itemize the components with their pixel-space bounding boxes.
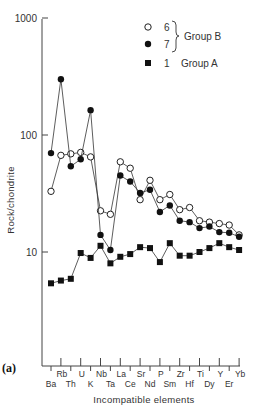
- data-point: [127, 251, 133, 257]
- data-point: [58, 76, 64, 82]
- data-point: [58, 278, 64, 284]
- y-axis-title: Rock/chondrite: [5, 166, 16, 234]
- data-point: [177, 218, 183, 224]
- data-point: [48, 150, 54, 156]
- legend-marker-filled-square: [145, 60, 151, 66]
- data-point: [88, 255, 94, 261]
- x-tick-label-dy: Dy: [204, 379, 215, 389]
- data-point: [167, 240, 173, 246]
- data-point: [197, 249, 203, 255]
- data-point: [97, 232, 103, 238]
- data-point: [87, 154, 93, 160]
- data-point: [137, 244, 143, 250]
- data-point: [137, 196, 143, 202]
- y-tick-label: 10: [26, 247, 38, 258]
- x-tick-label-ce: Ce: [125, 379, 136, 389]
- spider-diagram: 101001000 BaRbThUKNbTaLaCeSrNdPSmZrHfTiD…: [0, 0, 262, 411]
- data-point: [78, 156, 84, 162]
- data-point: [58, 152, 64, 158]
- data-point: [186, 219, 192, 225]
- y-axis: 101001000: [15, 13, 48, 367]
- data-point: [117, 172, 123, 178]
- data-point: [117, 159, 123, 165]
- x-tick-label-la: La: [117, 369, 127, 379]
- legend-brace-icon: [172, 21, 179, 52]
- x-tick-label-rb: Rb: [56, 369, 67, 379]
- x-tick-label-yb: Yb: [235, 369, 246, 379]
- data-point: [127, 165, 133, 171]
- data-point: [48, 280, 54, 286]
- x-tick-label-p: P: [158, 369, 164, 379]
- data-point: [206, 245, 212, 251]
- data-point: [206, 223, 212, 229]
- data-point: [48, 188, 54, 194]
- x-tick-label-ti: Ti: [197, 369, 204, 379]
- x-tick-label-sm: Sm: [163, 379, 176, 389]
- data-point: [196, 225, 202, 231]
- x-tick-label-zr: Zr: [177, 369, 185, 379]
- x-tick-label-nb: Nb: [96, 369, 107, 379]
- data-point: [226, 230, 232, 236]
- x-axis-title: Incompatible elements: [93, 394, 194, 405]
- data-point: [216, 240, 222, 246]
- data-point: [147, 245, 153, 251]
- x-tick-label-ta: Ta: [106, 379, 115, 389]
- data-point: [157, 259, 163, 265]
- data-point: [226, 244, 232, 250]
- data-point: [78, 250, 84, 256]
- x-tick-label-hf: Hf: [185, 379, 194, 389]
- legend-marker-open-circle: [145, 24, 151, 30]
- data-point: [177, 206, 183, 212]
- legend-group-a: Group A: [181, 58, 218, 69]
- x-tick-label-nd: Nd: [145, 379, 156, 389]
- legend: 6 7 Group B 1 Group A: [145, 21, 222, 69]
- data-point: [68, 276, 74, 282]
- y-tick-label: 100: [20, 130, 37, 141]
- plot-area: [48, 76, 243, 286]
- x-tick-label-th: Th: [66, 379, 76, 389]
- legend-label-7: 7: [164, 39, 170, 50]
- data-point: [117, 254, 123, 260]
- data-point: [68, 163, 74, 169]
- data-point: [216, 220, 222, 226]
- x-tick-label-k: K: [88, 379, 94, 389]
- legend-marker-filled-circle: [145, 41, 151, 47]
- data-point: [236, 234, 242, 240]
- data-point: [107, 211, 113, 217]
- x-tick-label-y: Y: [217, 369, 223, 379]
- x-tick-label-sr: Sr: [137, 369, 146, 379]
- data-point: [187, 253, 193, 259]
- data-point: [167, 202, 173, 208]
- y-tick-label: 1000: [15, 13, 38, 24]
- data-point: [147, 187, 153, 193]
- data-point: [98, 243, 104, 249]
- x-axis: BaRbThUKNbTaLaCeSrNdPSmZrHfTiDyYErYb: [42, 358, 246, 389]
- data-point: [186, 204, 192, 210]
- data-point: [87, 107, 93, 113]
- data-point: [137, 190, 143, 196]
- data-point: [127, 178, 133, 184]
- data-point: [226, 222, 232, 228]
- data-point: [177, 253, 183, 259]
- series-filled-square-1: [48, 240, 242, 286]
- data-point: [216, 229, 222, 235]
- data-point: [147, 177, 153, 183]
- series-filled-circle-7: [48, 76, 243, 253]
- data-point: [107, 260, 113, 266]
- data-point: [196, 218, 202, 224]
- legend-group-b: Group B: [184, 31, 222, 42]
- data-point: [236, 247, 242, 253]
- data-point: [107, 247, 113, 253]
- data-point: [157, 209, 163, 215]
- data-point: [167, 191, 173, 197]
- series-open-circle-6: [48, 149, 243, 238]
- x-tick-label-u: U: [79, 369, 85, 379]
- data-point: [157, 196, 163, 202]
- panel-label: (a): [2, 361, 16, 375]
- data-point: [68, 151, 74, 157]
- x-tick-label-er: Er: [225, 379, 234, 389]
- x-tick-label-ba: Ba: [46, 379, 57, 389]
- legend-label-6: 6: [164, 22, 170, 33]
- legend-label-1: 1: [164, 58, 170, 69]
